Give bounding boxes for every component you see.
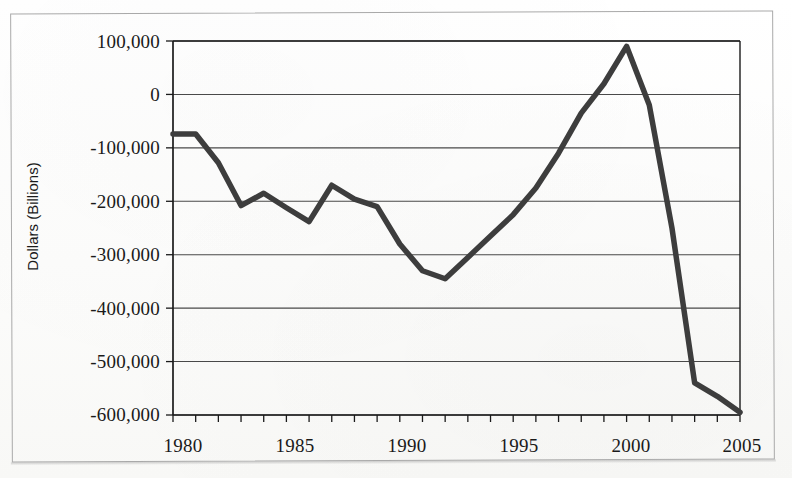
y-major-ticks <box>166 41 173 415</box>
line-chart: Dollars (Billions) 100,000 0 -100,000 -2… <box>0 0 792 478</box>
axis-lines <box>173 41 740 415</box>
x-minor-ticks <box>173 415 740 422</box>
gridlines <box>173 41 740 415</box>
plot-canvas <box>0 0 792 478</box>
data-series-line <box>173 46 740 412</box>
chart-screenshot: Dollars (Billions) 100,000 0 -100,000 -2… <box>0 0 792 478</box>
